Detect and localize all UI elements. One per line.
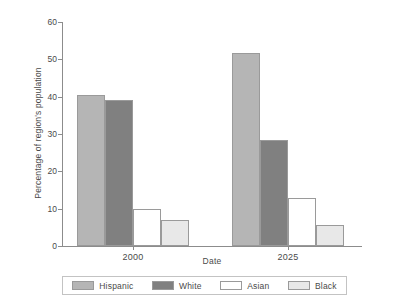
y-tick-label: 60 (17, 18, 57, 27)
legend-swatch-asian (220, 281, 242, 290)
bar-white-2025 (260, 140, 288, 246)
y-tick-label: 40 (17, 93, 57, 102)
bar-chart: Percentage of region's population 010203… (0, 0, 399, 305)
legend-swatch-black (288, 281, 310, 290)
y-tick-mark (58, 59, 62, 60)
legend-item-hispanic[interactable]: Hispanic (72, 281, 133, 291)
legend-label: White (179, 281, 202, 291)
y-tick-mark (58, 246, 62, 247)
y-tick-mark (58, 209, 62, 210)
bar-hispanic-2025 (232, 53, 260, 246)
x-axis-line (62, 246, 362, 247)
bar-white-2000 (105, 100, 133, 246)
bar-asian-2025 (288, 198, 316, 246)
x-tick-mark (288, 246, 289, 250)
y-tick-mark (58, 22, 62, 23)
y-tick-label: 20 (17, 167, 57, 176)
y-axis-line (62, 22, 63, 246)
legend-label: Asian (247, 281, 269, 291)
legend-item-black[interactable]: Black (288, 281, 337, 291)
bar-hispanic-2000 (77, 95, 105, 246)
x-tick-mark (133, 246, 134, 250)
plot-area: 010203040506020002025 (62, 22, 362, 246)
x-axis-title: Date (62, 256, 362, 266)
legend-label: Black (315, 281, 337, 291)
legend-label: Hispanic (99, 281, 133, 291)
bar-black-2000 (161, 220, 189, 246)
bar-black-2025 (316, 225, 344, 246)
legend-item-white[interactable]: White (152, 281, 202, 291)
y-tick-label: 50 (17, 55, 57, 64)
y-tick-mark (58, 134, 62, 135)
legend-swatch-white (152, 281, 174, 290)
bar-asian-2000 (133, 209, 161, 246)
legend-swatch-hispanic (72, 281, 94, 290)
y-tick-label: 0 (17, 242, 57, 251)
y-tick-label: 10 (17, 205, 57, 214)
chart-legend: HispanicWhiteAsianBlack (62, 276, 347, 295)
legend-item-asian[interactable]: Asian (220, 281, 269, 291)
y-tick-mark (58, 171, 62, 172)
y-tick-mark (58, 97, 62, 98)
y-tick-label: 30 (17, 130, 57, 139)
